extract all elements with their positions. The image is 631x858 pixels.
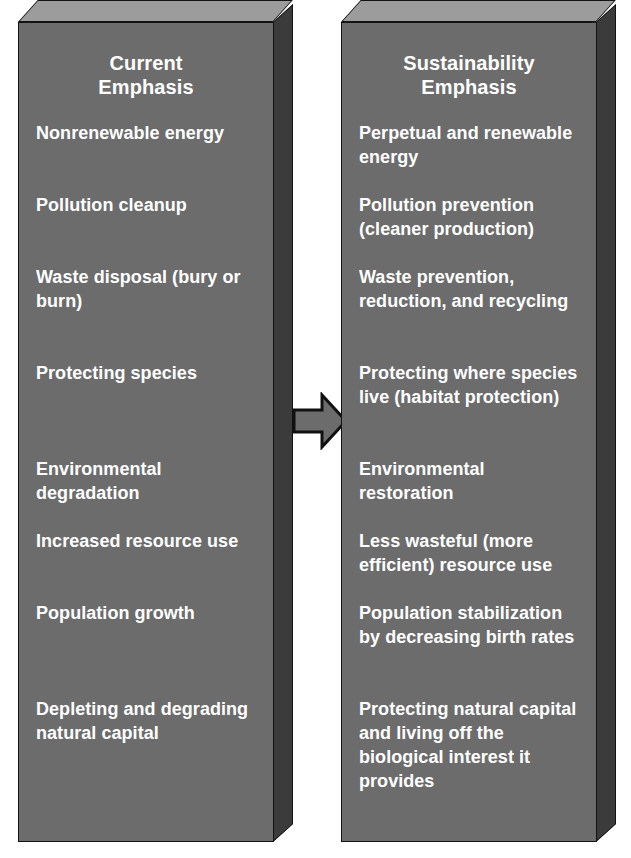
panel-front-face: Current Emphasis Nonrenewable energyPoll…	[18, 22, 274, 842]
left-panel-item: Pollution cleanup	[36, 193, 261, 265]
right-panel-item: Perpetual and renewable energy	[359, 121, 584, 193]
right-panel-item: Protecting natural capital and living of…	[359, 697, 584, 817]
right-panel-item: Population stabilization by decreasing b…	[359, 601, 584, 697]
right-panel-item: Pollution prevention (cleaner production…	[359, 193, 584, 265]
left-panel-item: Environmental degradation	[36, 457, 261, 529]
left-panel-item-list: Nonrenewable energyPollution cleanupWast…	[19, 121, 273, 817]
right-arrow-icon	[292, 392, 348, 450]
left-panel-item: Population growth	[36, 601, 261, 697]
right-panel-item: Waste prevention, reduction, and recycli…	[359, 265, 584, 361]
left-panel-item: Waste disposal (bury or burn)	[36, 265, 261, 361]
left-panel-item: Nonrenewable energy	[36, 121, 261, 193]
right-panel-item: Protecting where species live (habitat p…	[359, 361, 584, 457]
left-panel-item: Depleting and degrading natural capital	[36, 697, 261, 817]
left-panel-title-line1: Current	[33, 51, 259, 75]
right-panel-item: Less wasteful (more efficient) resource …	[359, 529, 584, 601]
panel-top-face	[18, 0, 293, 22]
right-panel-item: Environmental restoration	[359, 457, 584, 529]
left-panel-title: Current Emphasis	[19, 23, 273, 99]
right-panel-title-line1: Sustainability	[356, 51, 582, 75]
right-panel-title-line2: Emphasis	[356, 75, 582, 99]
panel-side-face	[273, 4, 293, 842]
panel-top-face	[341, 0, 616, 22]
panel-side-face	[596, 4, 616, 842]
left-panel-title-line2: Emphasis	[33, 75, 259, 99]
comparison-diagram: Current Emphasis Nonrenewable energyPoll…	[0, 0, 631, 858]
left-panel-item: Protecting species	[36, 361, 261, 457]
panel-front-face: Sustainability Emphasis Perpetual and re…	[341, 22, 597, 842]
right-panel-title: Sustainability Emphasis	[342, 23, 596, 99]
left-panel-item: Increased resource use	[36, 529, 261, 601]
right-panel-item-list: Perpetual and renewable energyPollution …	[342, 121, 596, 817]
